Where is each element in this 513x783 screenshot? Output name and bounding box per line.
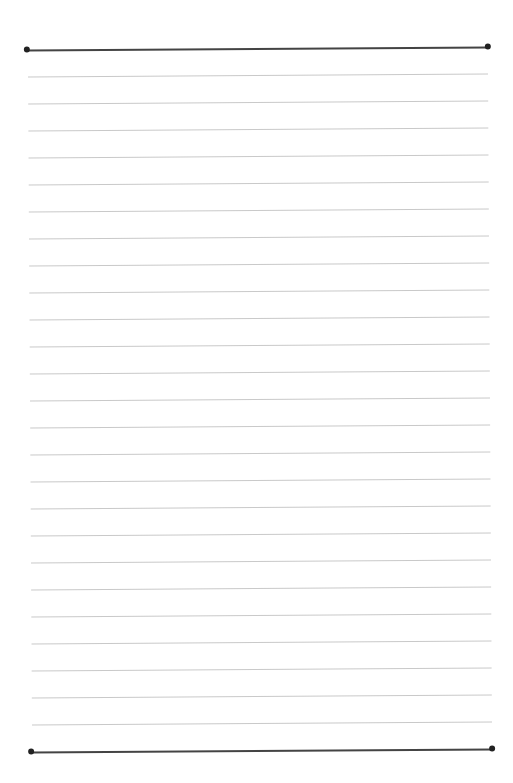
ruled-line <box>30 425 490 429</box>
ruled-lines <box>0 0 511 2</box>
ruled-line <box>32 668 492 672</box>
ruled-line <box>31 560 491 564</box>
ruled-line <box>30 317 490 321</box>
ruled-line <box>31 641 491 645</box>
lined-paper-page <box>0 0 513 783</box>
ruled-line <box>29 290 489 294</box>
ruled-line <box>32 695 492 699</box>
bottom-left-dot <box>28 748 34 754</box>
ruled-line <box>29 182 489 186</box>
top-right-dot <box>485 44 491 50</box>
ruled-line <box>30 452 490 456</box>
ruled-line <box>29 263 489 267</box>
ruled-line <box>30 371 490 375</box>
ruled-line <box>28 74 488 78</box>
ruled-line <box>32 722 492 726</box>
bottom-right-dot <box>489 746 495 752</box>
ruled-line <box>28 128 488 132</box>
ruled-line <box>31 587 491 591</box>
bottom-border-line <box>32 749 492 753</box>
ruled-line <box>29 209 489 213</box>
ruled-line <box>31 506 491 510</box>
ruled-line <box>30 398 490 402</box>
ruled-line <box>28 101 488 105</box>
top-border-line <box>28 47 488 51</box>
ruled-line <box>31 614 491 618</box>
ruled-line <box>30 344 490 348</box>
ruled-line <box>29 155 489 159</box>
ruled-line <box>30 479 490 483</box>
top-left-dot <box>24 46 30 52</box>
ruled-line <box>31 533 491 537</box>
ruled-line <box>29 236 489 240</box>
